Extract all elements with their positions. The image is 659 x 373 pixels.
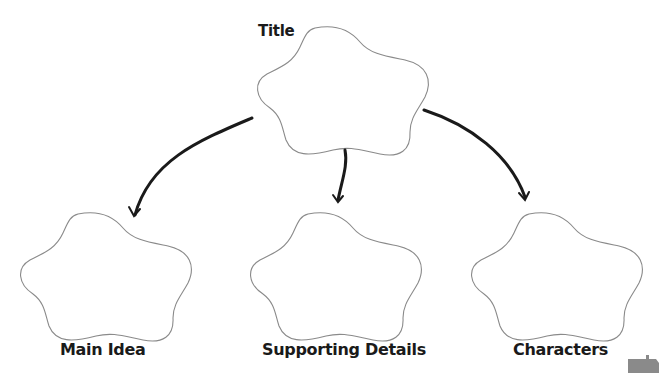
main-idea-cloud — [21, 213, 192, 341]
main-idea-label: Main Idea — [60, 340, 146, 359]
characters-cloud — [472, 213, 643, 341]
corner-tab-graphic — [628, 353, 659, 373]
diagram-canvas — [0, 0, 659, 373]
arrow-to-main-idea — [129, 118, 252, 216]
supporting-details-label: Supporting Details — [262, 340, 426, 359]
arrow-to-characters — [424, 110, 529, 200]
supporting-details-cloud — [251, 213, 422, 341]
characters-label: Characters — [513, 340, 608, 359]
title-label: Title — [258, 22, 294, 40]
title-cloud — [258, 27, 429, 155]
arrow-to-supporting-details — [333, 150, 346, 202]
